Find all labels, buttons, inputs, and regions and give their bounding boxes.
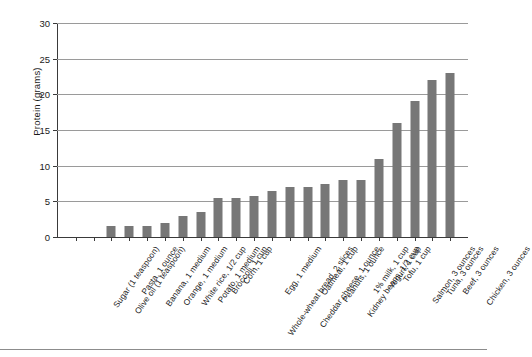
bar xyxy=(232,198,241,237)
x-tick-mark xyxy=(165,237,166,241)
bar-slot xyxy=(85,23,103,237)
bar xyxy=(125,226,134,237)
y-tick-mark-5 xyxy=(53,201,57,202)
y-tick-mark-10 xyxy=(53,166,57,167)
x-tick-mark xyxy=(76,237,77,241)
bar-slot xyxy=(156,23,174,237)
y-axis-title: Protein (grams) xyxy=(31,22,42,182)
bar-slot xyxy=(103,23,121,237)
bar-slot xyxy=(138,23,156,237)
bar-slot xyxy=(281,23,299,237)
x-tick-mark xyxy=(379,237,380,241)
plot-area: 051015202530 Sugar (1 teaspoon)Olive oil… xyxy=(57,23,468,237)
x-tick-mark xyxy=(129,237,130,241)
x-tick-mark xyxy=(94,237,95,241)
bar-slot xyxy=(406,23,424,237)
y-tick-mark-25 xyxy=(53,59,57,60)
bar-slot xyxy=(299,23,317,237)
x-tick-mark xyxy=(201,237,202,241)
bar-slot xyxy=(245,23,263,237)
bar-slot xyxy=(227,23,245,237)
bar xyxy=(214,198,223,237)
bar xyxy=(160,223,169,237)
x-tick-mark xyxy=(147,237,148,241)
y-tick-label: 0 xyxy=(45,232,50,243)
y-tick-label: 15 xyxy=(39,125,50,136)
x-tick-mark xyxy=(183,237,184,241)
bar-slot xyxy=(352,23,370,237)
x-tick-mark xyxy=(415,237,416,241)
bar xyxy=(374,159,383,237)
bar xyxy=(339,180,348,237)
y-tick-mark-0 xyxy=(53,237,57,238)
x-tick-mark xyxy=(343,237,344,241)
bar-slot xyxy=(316,23,334,237)
bar-slot xyxy=(423,23,441,237)
bar-slot xyxy=(192,23,210,237)
bar-slot xyxy=(441,23,459,237)
bar-slot xyxy=(67,23,85,237)
bar-slot xyxy=(334,23,352,237)
bar-slot xyxy=(370,23,388,237)
y-tick-label: 25 xyxy=(39,53,50,64)
x-tick-mark xyxy=(111,237,112,241)
bar-slot xyxy=(210,23,228,237)
bar xyxy=(107,226,116,237)
bar xyxy=(250,196,259,237)
y-tick-label: 10 xyxy=(39,160,50,171)
bar xyxy=(392,123,401,237)
bar xyxy=(357,180,366,237)
y-tick-mark-15 xyxy=(53,130,57,131)
bar xyxy=(267,191,276,237)
x-tick-mark xyxy=(325,237,326,241)
x-tick-mark xyxy=(254,237,255,241)
bar-slot xyxy=(174,23,192,237)
bar-slot xyxy=(120,23,138,237)
bar xyxy=(196,212,205,237)
x-tick-mark xyxy=(236,237,237,241)
x-tick-mark xyxy=(308,237,309,241)
x-tick-mark xyxy=(218,237,219,241)
x-tick-mark xyxy=(290,237,291,241)
y-tick-label: 20 xyxy=(39,89,50,100)
x-tick-mark xyxy=(432,237,433,241)
bar xyxy=(410,101,419,237)
bar-slot xyxy=(388,23,406,237)
bar xyxy=(285,187,294,237)
y-tick-mark-20 xyxy=(53,94,57,95)
bar xyxy=(143,226,152,237)
x-tick-mark xyxy=(450,237,451,241)
bottom-divider xyxy=(0,349,487,350)
y-tick-label: 5 xyxy=(45,196,50,207)
y-tick-label: 30 xyxy=(39,18,50,29)
bar-series xyxy=(58,23,468,237)
bar xyxy=(446,73,455,237)
x-tick-mark xyxy=(397,237,398,241)
bar xyxy=(178,216,187,237)
bar-slot xyxy=(263,23,281,237)
y-tick-mark-30 xyxy=(53,23,57,24)
gridline-0 xyxy=(57,237,468,238)
x-tick-mark xyxy=(361,237,362,241)
bar xyxy=(303,187,312,237)
x-tick-mark xyxy=(272,237,273,241)
bar xyxy=(321,184,330,238)
bar xyxy=(428,80,437,237)
